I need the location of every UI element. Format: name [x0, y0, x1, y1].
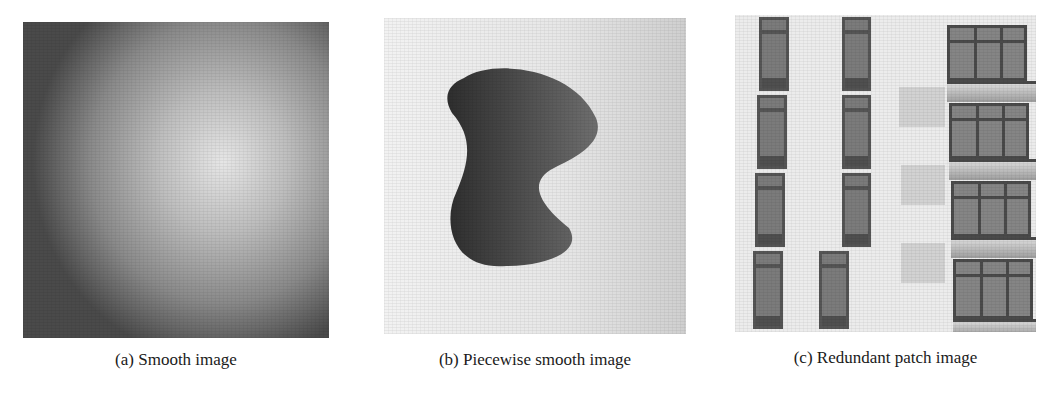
smooth-image: [23, 22, 329, 338]
piecewise-smooth-image: [384, 18, 686, 334]
caption-c: (c) Redundant patch image: [735, 348, 1036, 368]
caption-a: (a) Smooth image: [23, 350, 329, 370]
caption-b: (b) Piecewise smooth image: [384, 350, 686, 370]
redundant-patch-image: [735, 15, 1036, 332]
